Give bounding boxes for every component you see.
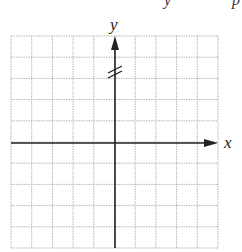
x-axis-arrow-icon [204, 139, 218, 147]
y-axis-arrow-icon [111, 36, 119, 50]
x-axis: x [11, 133, 232, 152]
x-axis-label: x [223, 133, 232, 152]
coordinate-plane: x y [0, 0, 242, 252]
y-axis-label: y [108, 15, 118, 34]
y-axis: y [108, 15, 122, 248]
